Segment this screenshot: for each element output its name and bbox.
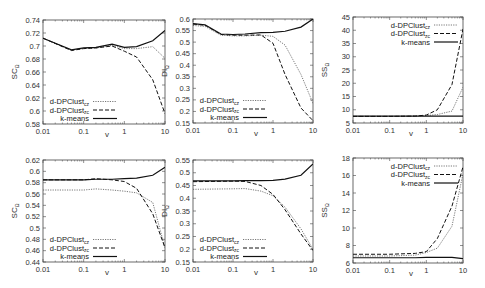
y-tick-label: 0.2 bbox=[180, 245, 190, 254]
series-line-d-dpclust-cz bbox=[353, 87, 463, 116]
y-tick-label: 0.3 bbox=[180, 84, 190, 93]
y-tick-label: 40 bbox=[342, 26, 350, 35]
legend-label: k-means bbox=[60, 114, 89, 123]
y-tick-label: 0.68 bbox=[25, 55, 40, 64]
y-tick-label: 16 bbox=[342, 171, 350, 180]
y-tick-label: 10 bbox=[342, 105, 350, 114]
x-tick-label: 10 bbox=[309, 265, 317, 274]
y-tick-label: 0.6 bbox=[180, 15, 190, 24]
y-tick-label: 0.56 bbox=[25, 190, 40, 199]
y-tick-label: 0.6 bbox=[30, 167, 40, 176]
y-tick-label: 0.3 bbox=[180, 219, 190, 228]
y-tick-label: 0.25 bbox=[175, 232, 190, 241]
y-tick-label: 8 bbox=[346, 241, 350, 250]
x-tick-label: 0.1 bbox=[228, 265, 238, 274]
y-tick-label: 0.35 bbox=[175, 207, 190, 216]
x-axis-label: v bbox=[254, 268, 258, 277]
series-line-d-dpclust-cz bbox=[193, 25, 313, 103]
legend: d-DPClustczd-DPClustzck-means bbox=[391, 162, 458, 188]
y-tick-label: 18 bbox=[342, 154, 350, 163]
x-tick-label: 10 bbox=[309, 126, 317, 135]
legend-label: k-means bbox=[401, 179, 430, 188]
y-tick-label: 0.66 bbox=[25, 68, 40, 77]
y-axis-label: SSΩ bbox=[320, 203, 330, 218]
y-axis-label: DIΩ bbox=[160, 205, 170, 217]
x-tick-label: 1 bbox=[122, 265, 126, 274]
x-tick-label: 1 bbox=[122, 127, 126, 136]
y-tick-label: 0.55 bbox=[175, 156, 190, 165]
y-tick-label: 0.48 bbox=[25, 235, 40, 244]
x-tick-label: 0.1 bbox=[384, 126, 394, 135]
x-tick-label: 0.1 bbox=[78, 127, 88, 136]
x-axis-label: v bbox=[409, 129, 413, 138]
y-tick-label: 0.5 bbox=[30, 224, 40, 233]
figure-grid: 0.580.60.620.640.660.680.70.720.740.010.… bbox=[0, 0, 485, 288]
x-tick-label: 1 bbox=[424, 266, 428, 275]
y-tick-label: 30 bbox=[342, 52, 350, 61]
series-line-k-means bbox=[353, 257, 463, 258]
legend: d-DPClustczd-DPClustzck-means bbox=[391, 21, 458, 47]
x-tick-label: 10 bbox=[161, 127, 169, 136]
x-tick-label: 0.1 bbox=[228, 126, 238, 135]
y-tick-label: 15 bbox=[342, 92, 350, 101]
series-line-d-dpclust-cz bbox=[43, 38, 165, 58]
y-tick-label: 0.4 bbox=[180, 61, 190, 70]
legend-label: k-means bbox=[401, 38, 430, 47]
series-line-k-means bbox=[193, 164, 313, 181]
legend-label: k-means bbox=[60, 252, 89, 261]
x-tick-label: 0.01 bbox=[36, 127, 51, 136]
y-tick-label: 0.4 bbox=[180, 194, 190, 203]
x-tick-label: 0.1 bbox=[384, 266, 394, 275]
legend: d-DPClustczd-DPClustzck-means bbox=[200, 235, 267, 261]
x-tick-label: 0.01 bbox=[346, 126, 361, 135]
y-axis-label: SSΩ bbox=[320, 63, 330, 78]
x-tick-label: 0.1 bbox=[78, 265, 88, 274]
legend: d-DPClustczd-DPClustzck-means bbox=[200, 96, 267, 122]
y-tick-label: 45 bbox=[342, 13, 350, 22]
x-tick-label: 10 bbox=[161, 265, 169, 274]
y-axis-label: SCΩ bbox=[10, 203, 20, 218]
y-tick-label: 25 bbox=[342, 66, 350, 75]
y-tick-label: 0.35 bbox=[175, 72, 190, 81]
charts-canvas: 0.580.60.620.640.660.680.70.720.740.010.… bbox=[0, 0, 485, 288]
chart-top-middle: 0.150.20.250.30.350.40.450.50.550.60.010… bbox=[160, 15, 317, 139]
series-line-k-means bbox=[193, 19, 313, 34]
y-tick-label: 0.54 bbox=[25, 201, 40, 210]
x-tick-label: 1 bbox=[424, 126, 428, 135]
chart-top-left: 0.580.60.620.640.660.680.70.720.740.010.… bbox=[10, 16, 169, 140]
x-axis-label: v bbox=[409, 269, 413, 278]
y-tick-label: 0.64 bbox=[25, 81, 40, 90]
chart-bottom-left: 0.440.460.480.50.520.540.560.580.60.620.… bbox=[10, 156, 169, 278]
legend-label: k-means bbox=[210, 113, 239, 122]
y-tick-label: 0.2 bbox=[180, 107, 190, 116]
chart-bottom-middle: 0.150.20.250.30.350.40.450.50.550.010.11… bbox=[160, 156, 317, 278]
y-tick-label: 12 bbox=[342, 206, 350, 215]
y-axis-label: SCΩ bbox=[10, 64, 20, 79]
x-tick-label: 0.01 bbox=[186, 265, 201, 274]
chart-bottom-right: 6810121416180.010.1110vSSΩd-DPClustczd-D… bbox=[320, 154, 467, 279]
y-tick-label: 0.6 bbox=[30, 107, 40, 116]
y-tick-label: 0.25 bbox=[175, 95, 190, 104]
x-tick-label: 1 bbox=[271, 265, 275, 274]
y-tick-label: 0.62 bbox=[25, 94, 40, 103]
y-tick-label: 0.62 bbox=[25, 156, 40, 165]
x-axis-label: v bbox=[105, 268, 109, 277]
y-tick-label: 0.7 bbox=[30, 42, 40, 51]
y-tick-label: 14 bbox=[342, 189, 350, 198]
y-tick-label: 0.5 bbox=[180, 38, 190, 47]
chart-top-right: 510152025303540450.010.1110vSSΩd-DPClust… bbox=[320, 13, 467, 139]
x-tick-label: 0.01 bbox=[186, 126, 201, 135]
x-tick-label: 0.01 bbox=[346, 266, 361, 275]
y-tick-label: 0.46 bbox=[25, 246, 40, 255]
x-axis-label: v bbox=[105, 130, 109, 139]
y-tick-label: 0.45 bbox=[175, 49, 190, 58]
y-tick-label: 0.58 bbox=[25, 178, 40, 187]
x-tick-label: 0.01 bbox=[36, 265, 51, 274]
y-tick-label: 0.55 bbox=[175, 26, 190, 35]
y-tick-label: 20 bbox=[342, 79, 350, 88]
y-tick-label: 0.72 bbox=[25, 29, 40, 38]
legend: d-DPClustczd-DPClustzck-means bbox=[50, 235, 117, 261]
x-axis-label: v bbox=[254, 129, 258, 138]
y-tick-label: 0.74 bbox=[25, 16, 40, 25]
y-tick-label: 10 bbox=[342, 224, 350, 233]
